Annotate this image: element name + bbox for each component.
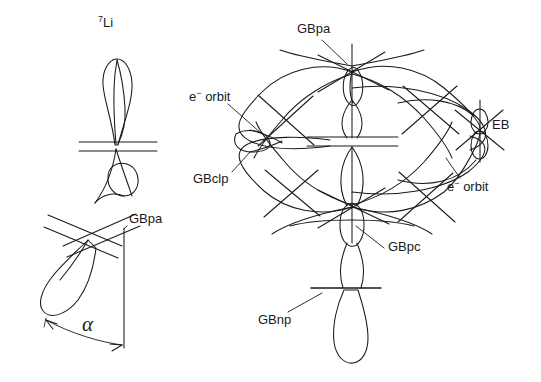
label-e-orbit-left: e− orbit — [189, 90, 230, 103]
left-gbpa-leader — [124, 226, 127, 229]
left-lower-lobe — [41, 240, 96, 315]
leader-right-gbpa — [322, 40, 347, 64]
label-e-orbit-left-word: orbit — [205, 89, 230, 104]
leader-e-orbit-left — [228, 104, 262, 134]
label-gbclp: GBclp — [193, 172, 228, 185]
leader-gbclp — [232, 152, 250, 172]
right-upper-spindle — [342, 100, 362, 138]
leader-gbpc — [356, 226, 384, 248]
left-upper-lobe — [103, 59, 132, 145]
right-leftlower-node — [264, 170, 320, 217]
label-left-gbpa: GBpa — [129, 212, 162, 225]
label-right-gbpa: GBpa — [297, 22, 330, 35]
leader-e-orbit-right — [446, 158, 460, 178]
orbit-envelope-outer-right — [352, 86, 486, 194]
right-lower-spindle — [341, 147, 363, 206]
label-li7-element: Li — [103, 15, 113, 30]
label-e-orbit-left-charge: − — [196, 88, 201, 98]
label-e-orbit-right: e− orbit — [447, 180, 488, 193]
label-li7-isotope: 7Li — [98, 16, 113, 29]
right-lowest-lobe — [334, 290, 368, 363]
right-bottom-connector — [340, 243, 363, 288]
orbit-envelope-left — [235, 67, 352, 212]
label-alpha-angle: α — [82, 312, 93, 337]
label-gbpc: GBpc — [388, 240, 421, 253]
left-connector-lobe — [95, 149, 138, 203]
left-lower-node-lines — [44, 214, 140, 258]
figure-canvas: 7Li GBpa α GBpa e− orbit GBclp EB e− orb… — [0, 0, 541, 382]
leader-gbnp — [288, 293, 322, 312]
label-gbnp: GBnp — [258, 313, 291, 326]
label-e-orbit-right-word: orbit — [463, 179, 488, 194]
label-eb: EB — [492, 118, 509, 131]
right-top-lens — [343, 68, 363, 106]
label-e-orbit-right-charge: − — [454, 178, 459, 188]
right-central-node-lines — [307, 137, 398, 146]
